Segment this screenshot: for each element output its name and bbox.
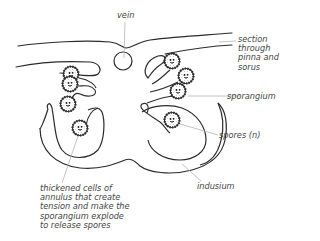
label-indusium: indusium bbox=[197, 182, 235, 191]
label-annulus: thickened cells of annulus that create t… bbox=[40, 184, 130, 230]
sporangium-stalks bbox=[72, 70, 178, 133]
label-vein: vein bbox=[117, 11, 134, 20]
indusium bbox=[40, 103, 226, 173]
label-section-through-pinna: section through pinna and sorus bbox=[238, 35, 279, 72]
right-lobe bbox=[145, 56, 165, 78]
vein-shape bbox=[114, 52, 132, 70]
label-spores: spores (n) bbox=[219, 131, 260, 140]
label-sporangium: sporangium bbox=[227, 92, 276, 101]
